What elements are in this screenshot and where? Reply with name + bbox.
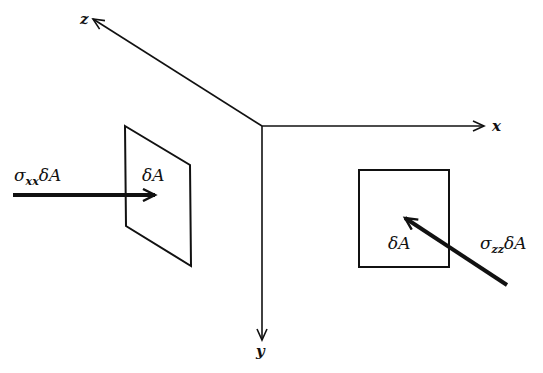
sigma-xx-symbol: σ <box>14 165 26 185</box>
z-axis-label: z <box>79 10 89 28</box>
left-area-label: δA <box>142 165 165 185</box>
sigma-zz-label: σzzδA <box>480 233 527 256</box>
sigma-xx-label: σxxδA <box>14 165 61 188</box>
sigma-zz-subscript: zz <box>491 243 505 256</box>
z-axis <box>93 19 262 126</box>
stress-diagram: z x y δA σxxδA δA σzzδA <box>0 0 543 373</box>
sigma-xx-subscript: xx <box>25 175 40 188</box>
y-axis-label: y <box>255 342 266 360</box>
sigma-xx-suffix: δA <box>39 165 62 185</box>
left-area-element: δA σxxδA <box>13 126 191 266</box>
sigma-zz-suffix: δA <box>504 233 527 253</box>
right-area-label: δA <box>388 233 411 253</box>
x-axis-label: x <box>491 117 502 135</box>
right-area-element: δA σzzδA <box>359 170 527 285</box>
sigma-zz-symbol: σ <box>480 233 492 253</box>
